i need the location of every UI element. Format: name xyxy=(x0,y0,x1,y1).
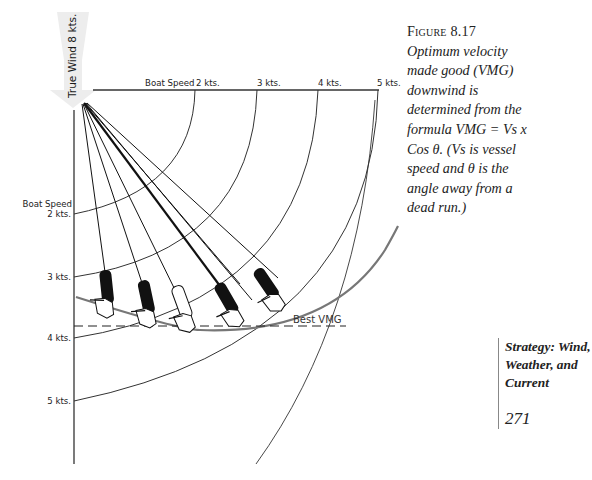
boat-4 xyxy=(202,281,247,335)
left-tick-2: 2 kts. xyxy=(47,209,71,219)
heading-lines xyxy=(82,103,278,300)
figure-caption: Figure 8.17 Optimum velocity made good (… xyxy=(407,22,527,218)
figure-label: Figure 8.17 xyxy=(407,23,476,39)
top-tick-2: 2 kts. xyxy=(196,78,220,88)
left-axis-title: Boat Speed xyxy=(23,199,72,209)
running-head: Strategy: Wind, Weather, and Current xyxy=(505,338,592,392)
page-number: 271 xyxy=(505,409,592,429)
top-axis-title: Boat Speed xyxy=(145,78,194,88)
boat-1 xyxy=(87,269,116,319)
top-tick-4: 4 kts. xyxy=(318,78,342,88)
left-tick-3: 3 kts. xyxy=(47,272,71,282)
figure-caption-text: Optimum velocity made good (VMG) downwin… xyxy=(407,43,527,216)
best-vmg-label: Best VMG xyxy=(293,314,342,325)
boat-5 xyxy=(242,266,289,319)
top-tick-3: 3 kts. xyxy=(257,78,281,88)
wind-label: True Wind 8 kts. xyxy=(66,14,78,99)
left-tick-4: 4 kts. xyxy=(47,333,71,343)
left-tick-5: 5 kts. xyxy=(47,396,71,406)
speed-arcs xyxy=(74,90,378,464)
boat-3 xyxy=(159,284,198,337)
top-tick-5: 5 kts. xyxy=(377,78,401,88)
boat-2 xyxy=(125,279,158,331)
margin-block: Strategy: Wind, Weather, and Current 271 xyxy=(498,338,592,429)
